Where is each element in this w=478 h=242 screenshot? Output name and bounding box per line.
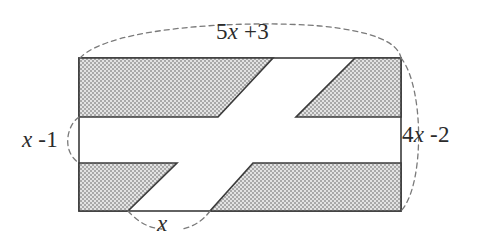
right-label-prefix: 4 — [402, 122, 414, 147]
shaded-region-bottom-left — [79, 163, 177, 211]
top-label-suffix: +3 — [238, 19, 269, 44]
right-dimension-label: 4x -2 — [402, 123, 450, 146]
dimension-arc-bottom-right — [182, 211, 210, 229]
top-dimension-label: 5x +3 — [216, 20, 269, 43]
left-label-variable: x — [22, 127, 32, 152]
bottom-dimension-label: x — [157, 212, 167, 235]
right-label-suffix: -2 — [424, 122, 450, 147]
top-label-variable: x — [228, 19, 238, 44]
top-label-prefix: 5 — [216, 19, 228, 44]
shaded-region-top-right — [296, 58, 401, 117]
left-dimension-label: x -1 — [22, 128, 58, 151]
dimension-arc-left — [68, 117, 79, 163]
right-label-variable: x — [414, 122, 424, 147]
bottom-label-variable: x — [157, 211, 167, 236]
geometry-figure: 5x +3 x -1 4x -2 x — [0, 0, 478, 242]
left-label-suffix: -1 — [32, 127, 58, 152]
shaded-region-bottom-right — [210, 163, 401, 211]
shaded-region-top-left — [79, 58, 273, 117]
